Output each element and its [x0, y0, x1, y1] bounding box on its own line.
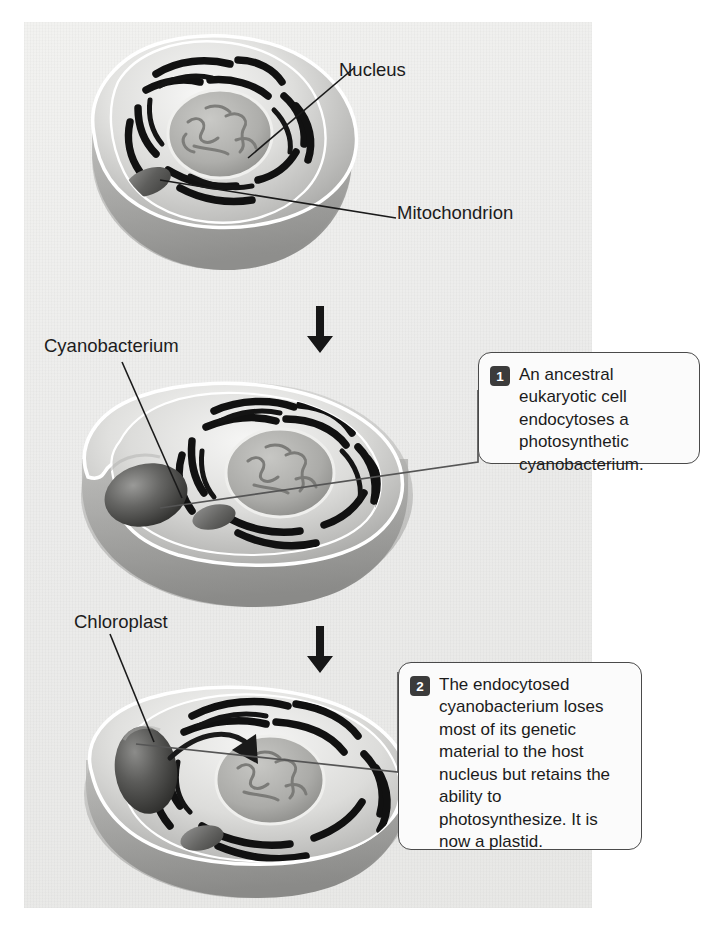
- callout-1-text: An ancestral eukaryotic cell endocytoses…: [519, 364, 687, 476]
- callout-1: 1 An ancestral eukaryotic cell endocytos…: [478, 352, 700, 464]
- callout-2-badge: 2: [410, 676, 430, 696]
- callout-2: 2 The endocytosed cyanobacterium loses m…: [398, 662, 642, 850]
- label-mitochondrion: Mitochondrion: [397, 204, 513, 223]
- stage-arrow-1-to-2: [303, 306, 337, 354]
- label-cyanobacterium: Cyanobacterium: [44, 337, 179, 356]
- label-nucleus: Nucleus: [339, 61, 406, 80]
- endosymbiosis-figure: ): [0, 0, 704, 930]
- callout-1-badge: 1: [490, 366, 510, 386]
- stage-arrow-2-to-3: [303, 626, 337, 674]
- callout-2-text: The endocytosed cyanobacterium loses mos…: [439, 674, 629, 854]
- label-chloroplast: Chloroplast: [74, 613, 168, 632]
